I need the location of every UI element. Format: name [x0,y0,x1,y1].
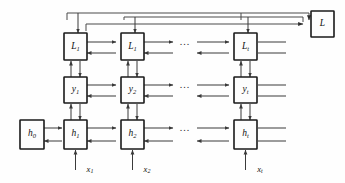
hidden-row-nodes: h0 h1 h2 ht ... [20,120,257,149]
output-row-nodes: y1 y2 yt ... [64,77,257,103]
loss-row-nodes: L1 L1 Lt ... [64,33,257,60]
total-loss-node: L [311,11,334,37]
bus-mid-line [124,17,303,22]
node-label-L-total: L [319,18,325,28]
input-label-x2: x2 [143,164,151,175]
input-wires [76,150,246,170]
output-to-loss-wires [71,61,250,77]
hidden-to-output-wires [71,104,250,120]
diagram-canvas: L1 L1 Lt ... [0,0,345,183]
input-labels: x1 x2 xt [86,164,263,175]
ellipsis-loss-row: ... [180,36,191,47]
rnn-computational-graph-diagram: L1 L1 Lt ... [0,0,345,183]
ellipsis-hidden-row: ... [180,122,191,133]
input-label-x1: x1 [86,164,94,175]
input-label-xt: xt [256,164,263,175]
loss-aggregation-bus [67,13,309,33]
ellipsis-output-row: ... [180,79,191,90]
